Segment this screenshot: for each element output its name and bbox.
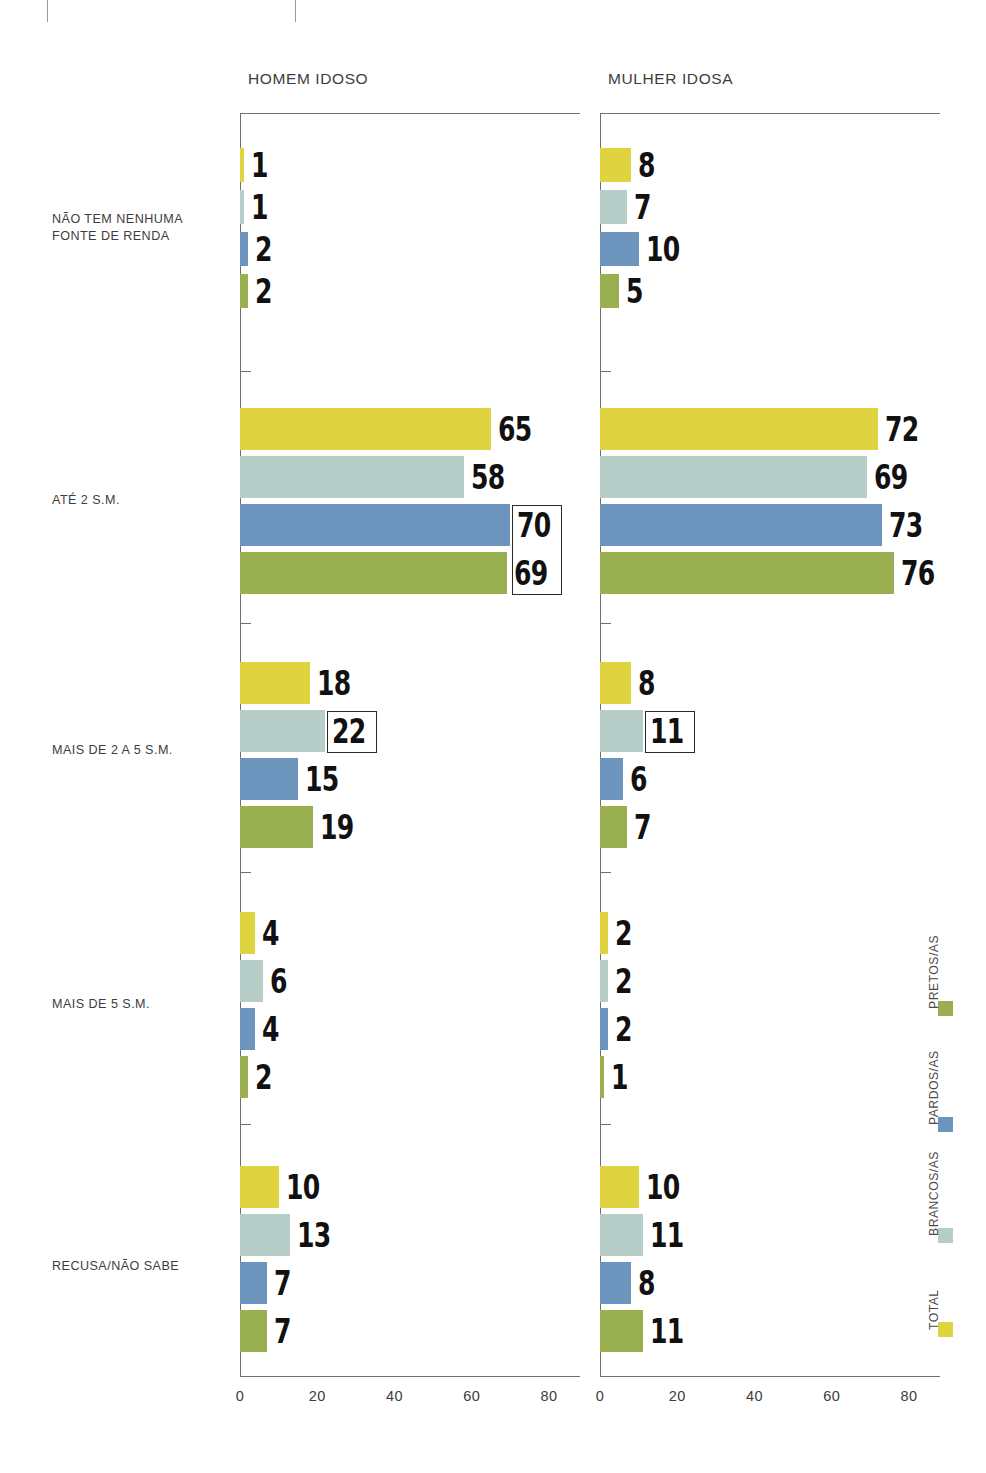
bar: [240, 456, 464, 498]
bar-value-label: 4: [262, 916, 279, 950]
bar-value-label: 10: [286, 1170, 319, 1204]
bar-value-label: 1: [611, 1060, 628, 1094]
bar: [240, 232, 248, 266]
chart-page: HOMEM IDOSO MULHER IDOSA NÃO TEM NENHUMA…: [0, 0, 986, 1473]
bar-value-label: 2: [255, 232, 272, 266]
bar: [240, 806, 313, 848]
bar-value-label: 4: [262, 1012, 279, 1046]
top-divider-rule-right: [295, 0, 296, 22]
bar-value-label: 5: [626, 274, 643, 308]
top-divider-rule-left: [47, 0, 48, 22]
bar-value-label: 76: [901, 556, 934, 590]
bar-value-label: 1: [251, 148, 268, 182]
panel2-group-tick-1: [600, 623, 611, 624]
panel1-group-tick-1: [240, 623, 251, 624]
bar: [600, 1262, 631, 1304]
bar: [600, 148, 631, 182]
bar: [240, 148, 244, 182]
bar: [600, 232, 639, 266]
bar-value-label: 2: [255, 274, 272, 308]
bar: [240, 1262, 267, 1304]
bar-value-label: 11: [650, 1314, 683, 1348]
bar: [600, 504, 882, 546]
x-tick-label: 60: [812, 1388, 852, 1404]
bar: [600, 274, 619, 308]
bar: [600, 806, 627, 848]
x-tick-label: 80: [889, 1388, 929, 1404]
bar-value-label: 2: [615, 1012, 632, 1046]
bar: [240, 1310, 267, 1352]
legend-label: BRANCOS/AS: [927, 1151, 941, 1236]
bar: [600, 1056, 604, 1098]
bar: [240, 408, 491, 450]
bar-value-label: 10: [646, 1170, 679, 1204]
bar: [600, 456, 867, 498]
panel1-x-axis: [240, 1376, 580, 1377]
bar: [240, 1056, 248, 1098]
panel1-group-tick-2: [240, 872, 251, 873]
bar-value-label: 7: [634, 810, 651, 844]
bar-value-label: 6: [630, 762, 647, 796]
bar-value-label: 8: [638, 148, 655, 182]
bar: [600, 1166, 639, 1208]
highlighted-value-box: [512, 505, 562, 595]
x-tick-label: 80: [529, 1388, 569, 1404]
x-tick-label: 0: [220, 1388, 260, 1404]
bar: [600, 408, 878, 450]
bar-value-label: 7: [634, 190, 651, 224]
x-tick-label: 40: [735, 1388, 775, 1404]
bar: [240, 1214, 290, 1256]
bar-value-label: 13: [297, 1218, 330, 1252]
bar-value-label: 6: [270, 964, 287, 998]
x-tick-label: 60: [452, 1388, 492, 1404]
highlighted-value-box: [327, 711, 377, 753]
bar-value-label: 72: [885, 412, 918, 446]
category-label-4: RECUSA/NÃO SABE: [52, 1258, 242, 1275]
bar-value-label: 2: [615, 964, 632, 998]
panel2-group-tick-2: [600, 872, 611, 873]
bar: [240, 662, 310, 704]
bar: [240, 552, 507, 594]
bar-value-label: 69: [874, 460, 907, 494]
category-label-0: NÃO TEM NENHUMA FONTE DE RENDA: [52, 211, 242, 246]
panel2-top-rule: [600, 113, 940, 114]
bar: [240, 758, 298, 800]
bar-value-label: 8: [638, 666, 655, 700]
category-label-3: MAIS DE 5 S.M.: [52, 996, 242, 1013]
x-tick-label: 20: [297, 1388, 337, 1404]
panel-title-homem: HOMEM IDOSO: [248, 70, 368, 88]
x-tick-label: 20: [657, 1388, 697, 1404]
bar: [240, 960, 263, 1002]
bar-value-label: 2: [255, 1060, 272, 1094]
bar-value-label: 7: [274, 1266, 291, 1300]
bar: [240, 504, 510, 546]
bar-value-label: 8: [638, 1266, 655, 1300]
bar: [600, 960, 608, 1002]
bar: [240, 190, 244, 224]
panel2-group-tick-0: [600, 371, 611, 372]
bar: [240, 912, 255, 954]
bar-value-label: 1: [251, 190, 268, 224]
x-tick-label: 40: [375, 1388, 415, 1404]
bar: [240, 1166, 279, 1208]
panel2-x-axis: [600, 1376, 940, 1377]
legend-label: PRETOS/AS: [927, 935, 941, 1009]
bar-value-label: 2: [615, 916, 632, 950]
bar: [600, 758, 623, 800]
legend-label: TOTAL: [927, 1289, 941, 1330]
bar: [600, 662, 631, 704]
bar: [240, 274, 248, 308]
bar-value-label: 65: [498, 412, 531, 446]
panel1-top-rule: [240, 113, 580, 114]
bar-value-label: 7: [274, 1314, 291, 1348]
bar: [600, 1310, 643, 1352]
bar: [600, 1008, 608, 1050]
bar-value-label: 73: [889, 508, 922, 542]
bar-value-label: 11: [650, 1218, 683, 1252]
panel1-group-tick-3: [240, 1124, 251, 1125]
bar-value-label: 10: [646, 232, 679, 266]
bar: [600, 190, 627, 224]
bar-value-label: 19: [320, 810, 353, 844]
legend-label: PARDOS/AS: [927, 1050, 941, 1125]
bar: [600, 710, 643, 752]
